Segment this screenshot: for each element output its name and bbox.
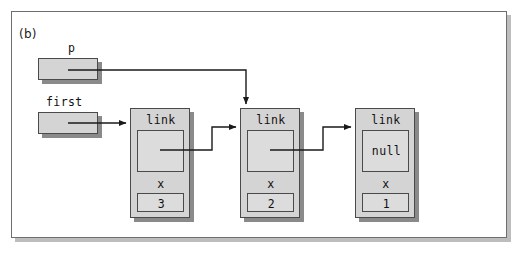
node-1[interactable]: link x 3: [130, 108, 190, 218]
pointer-box-p[interactable]: [38, 58, 98, 80]
node-2-link-label: link: [241, 113, 301, 127]
node-3-data-value: 1: [363, 197, 410, 211]
node-2-data-value: 2: [248, 197, 295, 211]
node-1-data-box[interactable]: 3: [137, 193, 184, 212]
node-3-link-box[interactable]: null: [362, 130, 409, 172]
panel-label: (b): [19, 27, 37, 41]
node-2-data-label: x: [241, 177, 301, 191]
node-2[interactable]: link x 2: [240, 108, 300, 218]
node-1-link-label: link: [131, 113, 191, 127]
pointer-box-first[interactable]: [38, 112, 98, 134]
pointer-label-p: p: [68, 41, 75, 55]
node-1-data-value: 3: [138, 197, 185, 211]
node-1-data-label: x: [131, 177, 191, 191]
node-3-link-label: link: [356, 113, 416, 127]
node-2-link-box[interactable]: [247, 130, 294, 172]
node-3-data-box[interactable]: 1: [362, 193, 409, 212]
pointer-label-first: first: [46, 95, 83, 109]
node-1-link-box[interactable]: [137, 130, 184, 172]
node-3[interactable]: link null x 1: [355, 108, 415, 218]
node-3-data-label: x: [356, 177, 416, 191]
node-3-link-value: null: [363, 144, 410, 158]
linked-list-figure: (b) p first link x 3 link x 2 link null: [0, 0, 525, 253]
node-2-data-box[interactable]: 2: [247, 193, 294, 212]
